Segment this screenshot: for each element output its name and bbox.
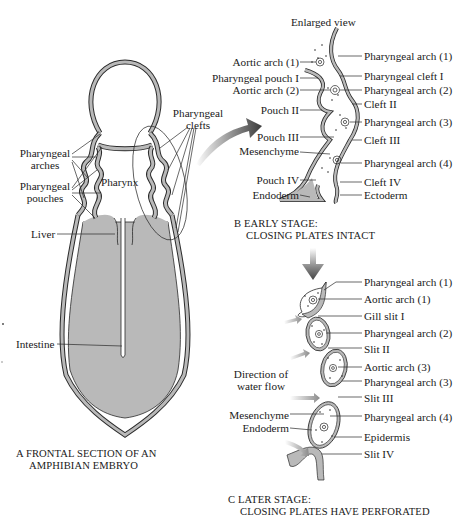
label-slit-3: Slit III [364, 392, 394, 404]
label-endoderm-c: Endoderm [242, 422, 289, 434]
label-pharyngeal-arch-4-c: Pharyngeal arch (4) [364, 411, 452, 423]
label-line: arches [18, 159, 72, 171]
label-pharyngeal-arch-1-c: Pharyngeal arch (1) [364, 276, 452, 288]
label-aortic-arch-1: Aortic arch (1) [233, 56, 299, 68]
label-pharyngeal-pouches: Pharyngeal pouches [18, 180, 72, 204]
label-cleft-4: Cleft IV [364, 176, 401, 188]
label-aortic-arch-1-c: Aortic arch (1) [364, 293, 430, 305]
label-line: water flow [226, 380, 296, 392]
label-pharyngeal-arch-4-b: Pharyngeal arch (4) [364, 157, 452, 169]
label-pharyngeal-arch-1-b: Pharyngeal arch (1) [364, 50, 452, 62]
label-ectoderm: Ectoderm [364, 189, 408, 201]
label-slit-2: Slit II [364, 343, 390, 355]
label-pharyngeal-arch-3-c: Pharyngeal arch (3) [364, 376, 452, 388]
label-pharyngeal-arches: Pharyngeal arches [18, 147, 72, 171]
label-pharyngeal-cleft-1: Pharyngeal cleft I [364, 70, 444, 82]
label-pharynx: Pharynx [101, 176, 138, 188]
label-endoderm-b: Endoderm [252, 189, 299, 201]
label-cleft-3: Cleft III [364, 134, 400, 146]
label-line: Pharyngeal [18, 147, 72, 159]
label-cleft-2: Cleft II [364, 98, 397, 110]
label-pouch-4: Pouch IV [256, 174, 299, 186]
caption-c-line1: C LATER STAGE: [228, 494, 311, 506]
stray-mark [1, 361, 3, 363]
label-line: clefts [170, 119, 226, 131]
label-line: pouches [18, 192, 72, 204]
caption-b-line2: CLOSING PLATES INTACT [246, 230, 375, 242]
down-arrow-icon [302, 248, 324, 280]
label-pouch-3: Pouch III [257, 131, 299, 143]
label-mesenchyme-c: Mesenchyme [229, 409, 289, 421]
caption-a-line2: AMPHIBIAN EMBRYO [29, 460, 138, 472]
label-line: Direction of [226, 368, 296, 380]
label-aortic-arch-2: Aortic arch (2) [233, 84, 299, 96]
label-epidermis: Epidermis [364, 431, 410, 443]
label-pharyngeal-arch-2-b: Pharyngeal arch (2) [364, 84, 452, 96]
label-enlarged-view: Enlarged view [291, 16, 356, 28]
label-line: Pharyngeal [18, 180, 72, 192]
later-stage-detail [287, 282, 351, 480]
label-pharyngeal-arch-3-b: Pharyngeal arch (3) [364, 116, 452, 128]
label-mesenchyme-b: Mesenchyme [239, 145, 299, 157]
label-pouch-2: Pouch II [261, 104, 299, 116]
label-line: Pharyngeal [170, 107, 226, 119]
caption-a-line1: A FRONTAL SECTION OF AN [16, 448, 157, 460]
label-slit-4: Slit IV [364, 448, 394, 460]
label-aortic-arch-3-c: Aortic arch (3) [364, 361, 430, 373]
caption-b-line1: B EARLY STAGE: [234, 218, 318, 230]
stray-mark [2, 323, 4, 325]
label-intestine: Intestine [16, 338, 55, 350]
label-direction-of-water-flow: Direction of water flow [226, 368, 296, 392]
label-pharyngeal-clefts: Pharyngeal clefts [170, 107, 226, 131]
label-gill-slit-1: Gill slit I [364, 310, 404, 322]
label-pharyngeal-arch-2-c: Pharyngeal arch (2) [364, 327, 452, 339]
label-pharyngeal-pouch-1: Pharyngeal pouch I [212, 72, 299, 84]
label-liver: Liver [31, 228, 55, 240]
caption-c-line2: CLOSING PLATES HAVE PERFORATED [240, 506, 430, 518]
